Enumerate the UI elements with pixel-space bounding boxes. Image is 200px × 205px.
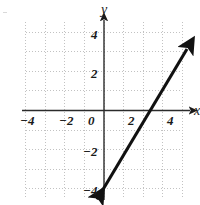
y-tick-label-neg2: −2 xyxy=(83,145,97,158)
scan-artifact xyxy=(3,12,7,13)
x-tick-label-0: 0 xyxy=(88,114,95,127)
x-tick-label-neg4: −4 xyxy=(20,114,34,127)
x-tick-label-2: 2 xyxy=(128,114,135,127)
x-axis-label: x xyxy=(194,104,200,118)
graph-canvas xyxy=(0,0,200,205)
axis-lines xyxy=(22,20,190,200)
coordinate-plane-figure: −4 −2 0 2 4 4 2 −2 −4 y x xyxy=(0,0,200,205)
y-tick-label-4: 4 xyxy=(91,28,98,41)
y-axis-label: y xyxy=(101,3,107,17)
y-tick-label-neg4: −4 xyxy=(83,184,97,197)
x-tick-label-4: 4 xyxy=(167,114,174,127)
y-tick-label-2: 2 xyxy=(91,67,98,80)
x-tick-label-neg2: −2 xyxy=(59,114,73,127)
